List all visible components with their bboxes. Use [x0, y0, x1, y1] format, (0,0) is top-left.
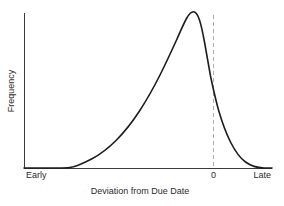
x-tick-label-early: Early [26, 170, 47, 180]
x-tick-label-zero: 0 [211, 170, 216, 180]
y-axis-title: Frequency [6, 69, 16, 112]
distribution-curve [24, 12, 272, 168]
x-axis-title: Deviation from Due Date [91, 186, 190, 196]
frequency-distribution-chart: Early 0 Late Deviation from Due Date Fre… [0, 0, 284, 206]
x-tick-label-late: Late [253, 170, 271, 180]
chart-plot-area: Early 0 Late Deviation from Due Date Fre… [0, 0, 284, 206]
